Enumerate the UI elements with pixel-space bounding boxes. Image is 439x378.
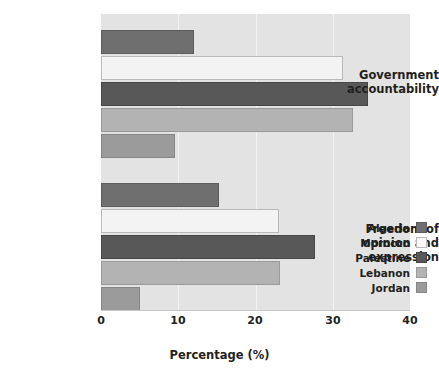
x-axis-title: Percentage (%) [0, 348, 439, 362]
x-tick-label-40: 40 [402, 314, 417, 327]
bar-government-accountability-lebanon [101, 108, 353, 132]
bar-chart: 0 10 20 30 40 Percentage (%) Government … [0, 0, 439, 378]
legend-item-morocco: Morocco [355, 236, 427, 249]
legend-label-morocco: Morocco [360, 237, 410, 249]
bar-freedom-of-opinion-and-expression-algeria [101, 183, 219, 207]
bar-freedom-of-opinion-and-expression-lebanon [101, 261, 280, 285]
legend-label-palestine: Palestine [355, 252, 410, 264]
x-tick-label-30: 30 [325, 314, 340, 327]
category-label-line: Government [343, 68, 439, 82]
legend: Algeria Morocco Palestine Lebanon Jordan [355, 221, 427, 294]
x-tick-label-0: 0 [97, 314, 105, 327]
bar-government-accountability-palestine [101, 82, 368, 106]
legend-swatch-algeria [416, 222, 427, 233]
legend-item-jordan: Jordan [355, 281, 427, 294]
bar-freedom-of-opinion-and-expression-jordan [101, 287, 140, 310]
legend-label-algeria: Algeria [368, 222, 410, 234]
legend-swatch-lebanon [416, 267, 427, 278]
bar-government-accountability-jordan [101, 134, 175, 158]
legend-item-palestine: Palestine [355, 251, 427, 264]
legend-swatch-morocco [416, 237, 427, 248]
category-label-line: accountability [343, 82, 439, 96]
legend-swatch-palestine [416, 252, 427, 263]
x-axis-line [101, 310, 410, 311]
legend-label-jordan: Jordan [372, 282, 410, 294]
x-tick-label-20: 20 [247, 314, 262, 327]
bar-government-accountability-algeria [101, 30, 194, 54]
legend-swatch-jordan [416, 282, 427, 293]
legend-label-lebanon: Lebanon [359, 267, 410, 279]
legend-item-algeria: Algeria [355, 221, 427, 234]
category-label-government-accountability: Government accountability [343, 68, 439, 96]
bar-government-accountability-morocco [101, 56, 343, 80]
legend-item-lebanon: Lebanon [355, 266, 427, 279]
bar-freedom-of-opinion-and-expression-palestine [101, 235, 315, 259]
x-tick-label-10: 10 [170, 314, 185, 327]
bar-freedom-of-opinion-and-expression-morocco [101, 209, 279, 233]
